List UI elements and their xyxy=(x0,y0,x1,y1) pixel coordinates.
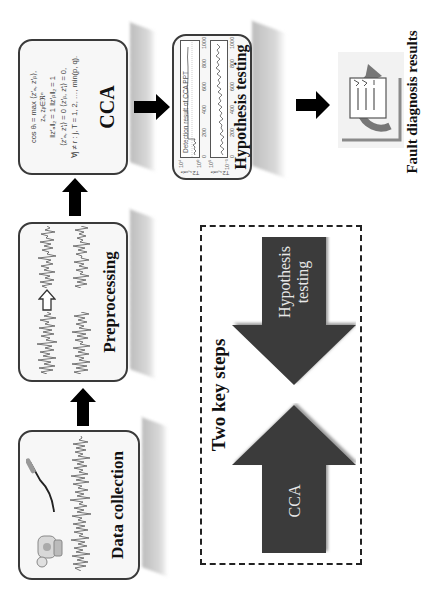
detection-plot-top: Detection result of CCA PPT xyxy=(180,40,200,158)
detection-trace-top xyxy=(181,41,199,157)
formula-line: cos θᵢ = max ⟨z′ₐ, z′ᵦ⟩, xyxy=(28,49,39,165)
xtick: 0 xyxy=(201,155,207,158)
cca-formula: cos θᵢ = max ⟨z′ₐ, z′ᵦ⟩, zₐ, zᵦ∈ℜⁿ ‖z′ₐ‖… xyxy=(28,49,80,165)
ytick: 10⁵ xyxy=(208,160,214,168)
cca-box: cos θᵢ = max ⟨z′ₐ, z′ᵦ⟩, zₐ, zᵦ∈ℜⁿ ‖z′ₐ‖… xyxy=(18,39,128,175)
detection-plot-bottom xyxy=(210,40,228,158)
hypothesis-testing-box: Detection result of CCA PPT 10⁴ 10⁰ T2ₛ꜀… xyxy=(172,34,252,180)
transmitter-device-icon xyxy=(28,530,66,570)
xtick: 600 xyxy=(201,82,207,91)
preprocessing-label: Preprocessing xyxy=(100,224,120,380)
processed-signal-waveform-2 xyxy=(66,226,96,288)
cca-label: CCA xyxy=(96,41,119,173)
key-steps-box: Two key steps CCA Hypothesis testing xyxy=(200,225,362,565)
hypothesis-step-label-line1: Hypothesis xyxy=(276,237,294,327)
processed-signal-waveform xyxy=(32,226,62,288)
hypothesis-shadow xyxy=(252,21,286,178)
arrow-right-icon xyxy=(70,388,96,426)
formula-line: ⟨z′ₐ, z′ⱼ⟩ = 0 ⟨z′ᵦ, z′ⱼ⟩ = 0, xyxy=(58,49,69,165)
hypothesis-testing-label: Hypothesis testing xyxy=(232,36,250,178)
raw-signal-waveform xyxy=(32,312,62,374)
raw-signal-waveform-2 xyxy=(66,312,96,374)
y-axis-label: T2ₛ꜀ₒₐₗₑ xyxy=(211,169,230,177)
preprocessing-box: Preprocessing xyxy=(18,222,128,382)
report-checklist-icon xyxy=(338,52,404,148)
arrow-right-icon xyxy=(62,178,88,216)
fault-diagnosis-label: Fault diagnosis results xyxy=(404,12,421,192)
raw-signal-waveform xyxy=(64,436,98,571)
data-collection-label: Data collection xyxy=(108,432,128,578)
y-axis-label: T2ₛ꜀ₒₐₗₑ xyxy=(181,169,200,177)
preprocessing-shadow xyxy=(130,209,156,378)
formula-line: ‖z′ₐ‖₂ = 1 ‖z′ᵦ‖₂ = 1 xyxy=(47,49,58,165)
ytick: 10⁰ xyxy=(196,160,202,168)
formula-line: zₐ, zᵦ∈ℜⁿ xyxy=(39,49,47,165)
arrow-down-icon xyxy=(134,94,170,120)
arrow-down-icon xyxy=(296,91,330,119)
xtick: 200 xyxy=(201,128,207,137)
key-steps-title: Two key steps xyxy=(208,227,230,563)
flow-diagram: Data collection Preprocessing cos θᵢ = m… xyxy=(0,0,436,612)
cca-step-label: CCA xyxy=(286,461,304,541)
xtick: 1000 xyxy=(201,37,207,49)
formula-line: ∀j ≠ r : j, T = 1, 2, …, min(p, q). xyxy=(69,49,80,165)
data-collection-shadow xyxy=(142,417,168,576)
probe-sensor-icon xyxy=(26,454,58,514)
detection-trace-bottom xyxy=(211,41,227,157)
hypothesis-step-label-line2: testing xyxy=(294,237,312,327)
xtick: 400 xyxy=(201,105,207,114)
xtick: 800 xyxy=(201,59,207,68)
x-ticks-top: 0 200 400 600 800 1000 xyxy=(201,40,208,158)
data-collection-box: Data collection xyxy=(18,430,140,580)
hollow-arrow-icon xyxy=(38,289,56,311)
ytick: 10⁴ xyxy=(178,160,184,168)
